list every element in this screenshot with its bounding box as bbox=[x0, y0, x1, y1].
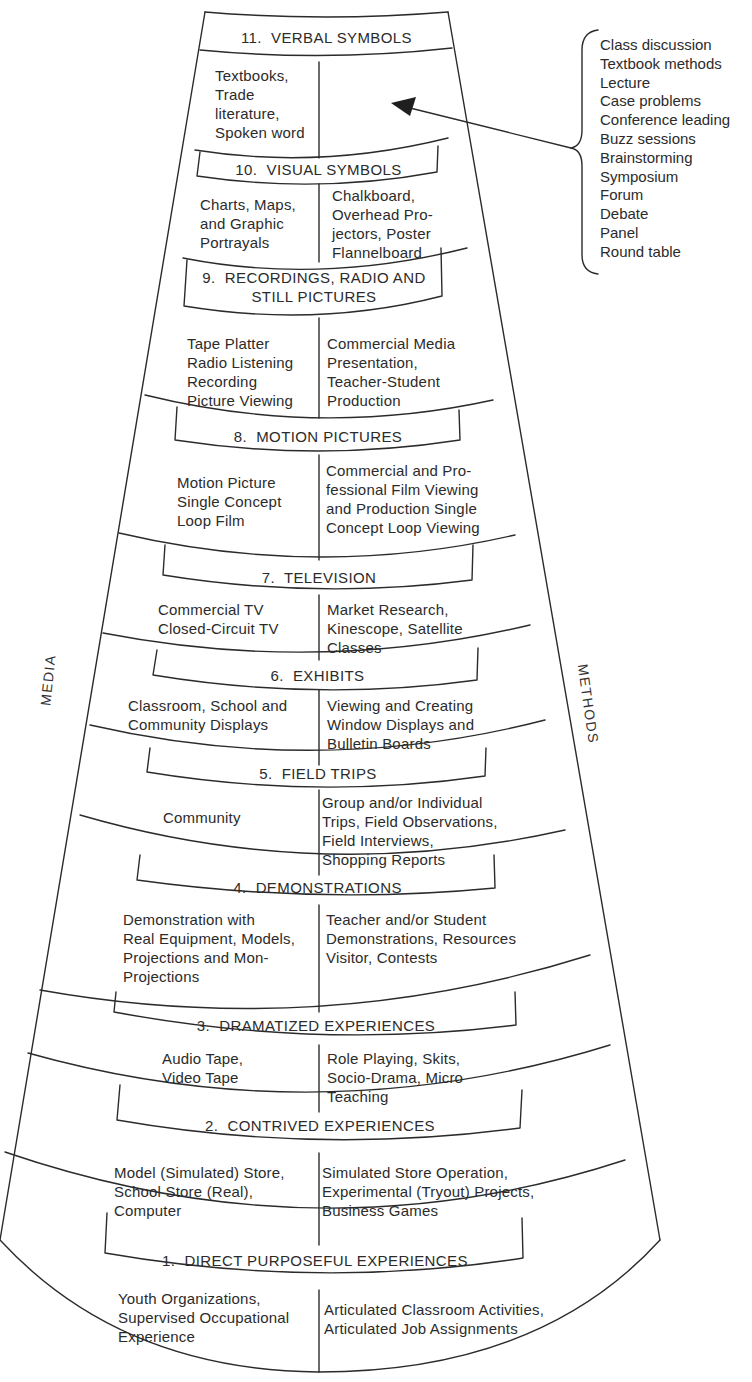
level-11-title: 11. VERBAL SYMBOLS bbox=[205, 28, 448, 47]
level-3-methods: Role Playing, Skits, Socio-Drama, Micro … bbox=[327, 1049, 463, 1106]
level-2-title: 2. CONTRIVED EXPERIENCES bbox=[120, 1116, 520, 1135]
level-7-media: Commercial TV Closed-Circuit TV bbox=[158, 600, 279, 638]
level-1-media: Youth Organizations, Supervised Occupati… bbox=[118, 1289, 289, 1346]
method-item: Buzz sessions bbox=[600, 130, 730, 149]
method-item: Debate bbox=[600, 205, 730, 224]
level-5-title: 5. FIELD TRIPS bbox=[150, 764, 486, 783]
method-item: Forum bbox=[600, 186, 730, 205]
level-1-methods: Articulated Classroom Activities, Articu… bbox=[324, 1300, 544, 1338]
level-4-methods: Teacher and/or Student Demonstrations, R… bbox=[326, 910, 516, 967]
level-6-methods: Viewing and Creating Window Displays and… bbox=[327, 696, 474, 753]
level-3-title: 3. DRAMATIZED EXPERIENCES bbox=[116, 1016, 516, 1035]
method-item: Class discussion bbox=[600, 36, 730, 55]
level-10-methods: Chalkboard, Overhead Pro- jectors, Poste… bbox=[332, 186, 433, 262]
level-6-media: Classroom, School and Community Displays bbox=[128, 696, 287, 734]
level-10-title: 10. VISUAL SYMBOLS bbox=[200, 160, 437, 179]
method-item: Lecture bbox=[600, 74, 730, 93]
level-9-title: 9. RECORDINGS, RADIO AND STILL PICTURES bbox=[187, 268, 441, 306]
level-4-title: 4. DEMONSTRATIONS bbox=[140, 878, 495, 897]
method-item: Round table bbox=[600, 243, 730, 262]
verbal-methods-list: Class discussion Textbook methods Lectur… bbox=[600, 36, 730, 262]
level-6-title: 6. EXHIBITS bbox=[157, 666, 478, 685]
method-item: Textbook methods bbox=[600, 55, 730, 74]
level-1-title: 1. DIRECT PURPOSEFUL EXPERIENCES bbox=[107, 1251, 523, 1270]
level-4-media: Demonstration with Real Equipment, Model… bbox=[123, 910, 295, 986]
method-item: Panel bbox=[600, 224, 730, 243]
method-item: Brainstorming bbox=[600, 149, 730, 168]
method-item: Conference leading bbox=[600, 111, 730, 130]
level-3-media: Audio Tape, Video Tape bbox=[162, 1049, 243, 1087]
level-5-methods: Group and/or Individual Trips, Field Obs… bbox=[322, 793, 498, 869]
level-5-media: Community bbox=[163, 808, 241, 827]
cone-of-experience-diagram: MEDIA METHODS Class discussion Textbook … bbox=[0, 0, 752, 1382]
level-10-media: Charts, Maps, and Graphic Portrayals bbox=[200, 195, 296, 252]
method-item: Case problems bbox=[600, 92, 730, 111]
level-9-media: Tape Platter Radio Listening Recording P… bbox=[187, 334, 293, 410]
method-item: Symposium bbox=[600, 168, 730, 187]
level-7-title: 7. TELEVISION bbox=[165, 568, 473, 587]
level-7-methods: Market Research, Kinescope, Satellite Cl… bbox=[327, 600, 463, 657]
level-2-methods: Simulated Store Operation, Experimental … bbox=[322, 1163, 534, 1220]
level-2-media: Model (Simulated) Store, School Store (R… bbox=[114, 1163, 285, 1220]
level-8-media: Motion Picture Single Concept Loop Film bbox=[177, 473, 282, 530]
level-8-title: 8. MOTION PICTURES bbox=[177, 427, 459, 446]
level-9-methods: Commercial Media Presentation, Teacher-S… bbox=[327, 334, 455, 410]
level-8-methods: Commercial and Pro- fessional Film Viewi… bbox=[326, 461, 480, 537]
level-11-media: Textbooks, Trade literature, Spoken word bbox=[215, 66, 305, 142]
